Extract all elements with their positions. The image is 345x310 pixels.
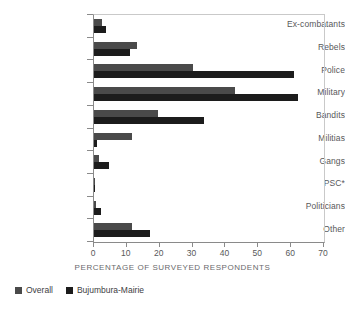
bar-military-bujumbura-mairie xyxy=(94,94,298,101)
x-tick-mark xyxy=(159,242,160,247)
bar-chart-figure: Ex-combatantsRebelsPoliceMilitaryBandits… xyxy=(0,0,345,310)
x-tick-label: 30 xyxy=(179,248,205,258)
legend-item-overall[interactable]: Overall xyxy=(15,285,53,295)
x-tick-mark xyxy=(323,242,324,247)
plot-area xyxy=(93,14,325,243)
legend-item-bujumbura-mairie[interactable]: Bujumbura-Mairie xyxy=(66,285,144,295)
x-tick-mark xyxy=(290,242,291,247)
x-tick-label: 40 xyxy=(211,248,237,258)
x-tick-label: 0 xyxy=(80,248,106,258)
x-tick-label: 60 xyxy=(277,248,303,258)
bar-militias-overall xyxy=(94,133,132,140)
bar-group xyxy=(94,151,324,174)
bar-group xyxy=(94,106,324,129)
bar-gangs-bujumbura-mairie xyxy=(94,162,109,169)
legend-swatch-icon xyxy=(66,287,73,294)
x-tick-mark xyxy=(126,242,127,247)
chart-legend: OverallBujumbura-Mairie xyxy=(15,285,144,295)
bar-group xyxy=(94,174,324,197)
bar-ex-combatants-overall xyxy=(94,19,102,26)
legend-label: Overall xyxy=(26,285,53,295)
x-tick-mark xyxy=(224,242,225,247)
bar-group xyxy=(94,129,324,152)
x-tick-mark xyxy=(257,242,258,247)
x-tick-label: 20 xyxy=(146,248,172,258)
bar-other-bujumbura-mairie xyxy=(94,230,150,237)
x-axis-title: PERCENTAGE OF SURVEYED RESPONDENTS xyxy=(0,263,345,272)
bar-police-bujumbura-mairie xyxy=(94,71,294,78)
bar-group xyxy=(94,219,324,242)
bar-politicians-overall xyxy=(94,201,96,208)
x-tick-mark xyxy=(93,242,94,247)
bar-group xyxy=(94,83,324,106)
bar-ex-combatants-bujumbura-mairie xyxy=(94,26,106,33)
bar-bandits-overall xyxy=(94,110,158,117)
bar-group xyxy=(94,60,324,83)
x-tick-mark xyxy=(192,242,193,247)
x-tick-label: 50 xyxy=(244,248,270,258)
bar-other-overall xyxy=(94,223,132,230)
x-tick-label: 10 xyxy=(113,248,139,258)
bar-gangs-overall xyxy=(94,155,99,162)
legend-label: Bujumbura-Mairie xyxy=(77,285,144,295)
x-tick-label: 70 xyxy=(310,248,336,258)
bar-psc-overall xyxy=(94,178,95,185)
bar-police-overall xyxy=(94,64,193,71)
bar-militias-bujumbura-mairie xyxy=(94,140,97,147)
bar-bandits-bujumbura-mairie xyxy=(94,117,204,124)
bar-group xyxy=(94,197,324,220)
bar-psc-bujumbura-mairie xyxy=(94,185,95,192)
bar-group xyxy=(94,38,324,61)
legend-swatch-icon xyxy=(15,287,22,294)
bar-rebels-bujumbura-mairie xyxy=(94,49,130,56)
bar-group xyxy=(94,15,324,38)
bar-rebels-overall xyxy=(94,42,137,49)
bar-military-overall xyxy=(94,87,235,94)
bar-politicians-bujumbura-mairie xyxy=(94,208,101,215)
